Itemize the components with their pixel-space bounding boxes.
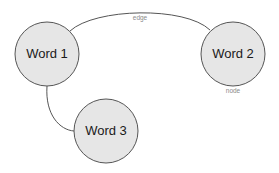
- node-annotation: node: [226, 87, 241, 94]
- graph-diagram: Word 1 Word 2 Word 3 edge node: [0, 0, 279, 173]
- node-word-2-label: Word 2: [212, 46, 254, 61]
- edge-annotation: edge: [133, 14, 148, 22]
- edge-word1-word3: [47, 86, 74, 131]
- node-word-1-label: Word 1: [26, 46, 68, 61]
- node-word-3-label: Word 3: [85, 123, 127, 138]
